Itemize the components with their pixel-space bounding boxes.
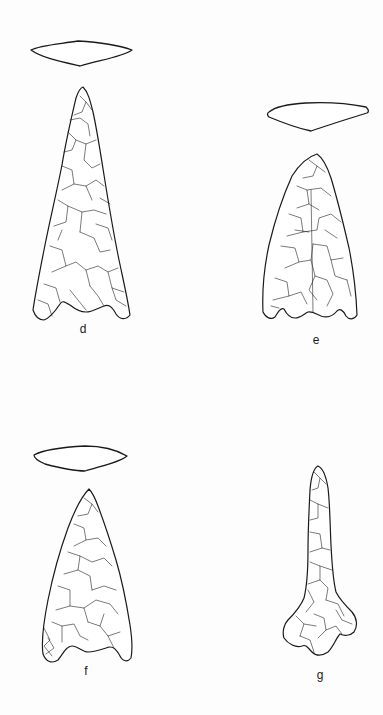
figure-label-e: e (306, 333, 326, 347)
figure-label-d: d (73, 322, 93, 336)
figure-e: e (191, 0, 383, 360)
point-drawing-e (191, 0, 383, 360)
point-drawing-d (0, 0, 191, 345)
figure-d: d (0, 0, 191, 345)
illustration-plate: d e f g (0, 0, 383, 715)
figure-g: g (240, 420, 383, 715)
figure-f: f (0, 400, 191, 715)
figure-label-g: g (310, 668, 330, 682)
figure-label-f: f (76, 664, 96, 678)
